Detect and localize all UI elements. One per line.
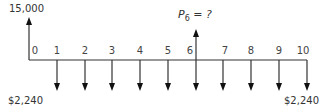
period-label-6: 6: [187, 45, 193, 56]
period-label-3: 3: [109, 45, 115, 56]
payment-arrow-8: [248, 60, 254, 91]
period-label-8: 8: [248, 45, 254, 56]
period-label-10: 10: [297, 45, 310, 56]
p-symbol: P: [178, 8, 185, 21]
period-label-5: 5: [165, 45, 171, 56]
payment-arrow-10: [304, 60, 310, 91]
period-label-1: 1: [54, 45, 60, 56]
payment-label-right: $2,240: [284, 95, 319, 106]
payment-arrow-4: [137, 60, 143, 91]
payment-arrow-2: [82, 60, 88, 91]
period-label-4: 4: [137, 45, 143, 56]
inflow-amount-label: 15,000: [9, 3, 44, 14]
unknown-arrow-period-6: [193, 29, 199, 60]
period-label-7: 7: [222, 45, 228, 56]
period-label-2: 2: [82, 45, 88, 56]
payment-arrows: [54, 60, 310, 91]
unknown-p6-label: P6 = ?: [178, 8, 212, 23]
payment-arrow-9: [276, 60, 282, 91]
payment-label-left: $2,240: [8, 95, 43, 106]
period-label-0: 0: [32, 45, 38, 56]
payment-arrow-3: [109, 60, 115, 91]
payment-arrow-1: [54, 60, 60, 91]
payment-arrow-6: [193, 60, 199, 91]
period-label-9: 9: [276, 45, 282, 56]
payment-arrow-5: [165, 60, 171, 91]
p-equals: = ?: [190, 8, 212, 21]
payment-arrow-7: [220, 60, 226, 91]
